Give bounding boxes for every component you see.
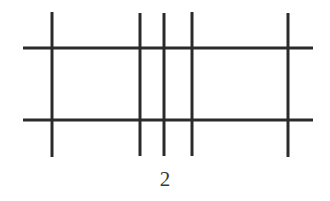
figure-caption: 2 xyxy=(0,166,330,192)
figure-container: 2 xyxy=(0,0,330,201)
